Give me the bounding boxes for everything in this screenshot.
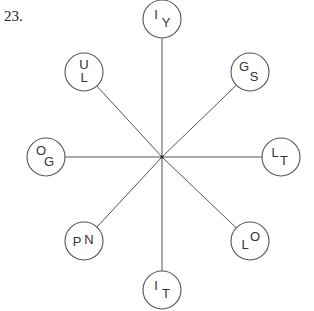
node-bottom-left: PN [65, 222, 103, 260]
spoke-bottom-left [97, 157, 162, 227]
node-letter: T [162, 286, 170, 301]
node-letter: S [250, 69, 259, 84]
node-right: LT [262, 138, 300, 176]
node-letter: T [280, 153, 288, 168]
spoke-bottom-right [162, 157, 236, 228]
node-bottom-right: LO [231, 222, 269, 260]
node-letter: G [239, 59, 249, 74]
node-top-right: GS [231, 53, 269, 91]
node-letter: G [44, 154, 54, 169]
node-letter: N [84, 232, 93, 247]
node-top-left: UL [65, 53, 103, 91]
node-letter: P [73, 234, 82, 249]
center-point [161, 156, 164, 159]
node-letter: I [154, 278, 158, 293]
node-letter: L [241, 237, 248, 252]
node-top: IY [143, 0, 181, 38]
node-letter: I [154, 7, 158, 22]
spoke-top-left [97, 86, 162, 157]
node-bottom: IT [143, 271, 181, 309]
letter-wheel-diagram: IYGSLTLOITPNOGUL [0, 0, 314, 311]
letter-nodes: IYGSLTLOITPNOGUL [27, 0, 300, 309]
node-left: OG [27, 138, 65, 176]
node-letter: L [271, 145, 278, 160]
node-letter: Y [162, 15, 171, 30]
node-letter: O [250, 229, 260, 244]
spoke-top-right [162, 85, 236, 157]
node-letter: L [80, 70, 87, 85]
